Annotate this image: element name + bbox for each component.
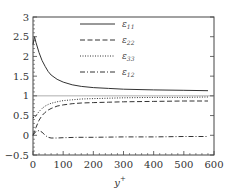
y-tick-label: 1 [23, 90, 29, 101]
legend-label: ε11 [122, 19, 134, 30]
y-tick-label: 0 [23, 130, 29, 141]
series-ε33 [33, 97, 208, 118]
y-tick-label: 2 [23, 51, 29, 62]
x-tick-label: 500 [174, 159, 193, 170]
series-ε12 [33, 131, 208, 138]
series-ε22 [33, 101, 208, 135]
x-tick-label: 600 [204, 159, 223, 170]
y-tick-label: 0.5 [13, 110, 29, 121]
x-tick-label: 300 [114, 159, 133, 170]
legend-label: ε22 [122, 35, 135, 46]
series-group [33, 37, 208, 138]
y-tick-label: 1.5 [13, 71, 29, 82]
legend-label: ε33 [122, 51, 135, 62]
legend: ε11ε22ε33ε12 [80, 19, 135, 78]
y-tick-label: −0.5 [5, 150, 29, 161]
x-tick-label: 0 [30, 159, 36, 170]
line-chart: −0.500.511.522.530100200300400500600 ε11… [0, 0, 226, 192]
x-tick-label: 200 [84, 159, 103, 170]
y-tick-label: 3 [23, 12, 29, 23]
series-ε11 [33, 37, 208, 91]
x-tick-label: 400 [144, 159, 163, 170]
x-tick-label: 100 [54, 159, 73, 170]
y-tick-label: 2.5 [13, 31, 29, 42]
x-axis-label: y+ [113, 175, 126, 188]
legend-label: ε12 [122, 67, 135, 78]
